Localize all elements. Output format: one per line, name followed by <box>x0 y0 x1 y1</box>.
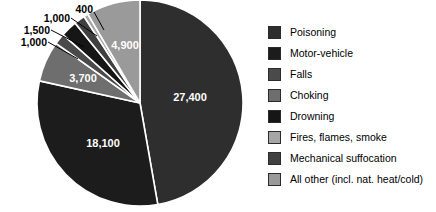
legend-item-fires-flames-smoke[interactable]: Fires, flames, smoke <box>268 127 436 148</box>
callout-label-mechanical-suffocation: 1,000 <box>44 12 70 24</box>
slice-label-motor-vehicle: 18,100 <box>86 137 120 149</box>
legend-item-motor-vehicle[interactable]: Motor-vehicle <box>268 43 436 64</box>
legend-label-drowning: Drowning <box>290 111 334 122</box>
legend-swatch-mechanical-suffocation <box>268 152 281 165</box>
legend-swatch-drowning <box>268 110 281 123</box>
legend-item-drowning[interactable]: Drowning <box>268 106 436 127</box>
legend-item-mechanical-suffocation[interactable]: Mechanical suffocation <box>268 148 436 169</box>
legend-item-poisoning[interactable]: Poisoning <box>268 22 436 43</box>
legend-label-poisoning: Poisoning <box>290 27 336 38</box>
legend-swatch-all-other <box>268 173 281 186</box>
legend-label-choking: Choking <box>290 90 329 101</box>
legend-label-motor-vehicle: Motor-vehicle <box>290 48 353 59</box>
legend-label-fires-flames-smoke: Fires, flames, smoke <box>290 132 387 143</box>
pie-plot-area: 27,400 18,100 3,700 4,900 1,000 1,500 1,… <box>0 0 262 212</box>
callout-label-drowning: 1,500 <box>24 24 50 36</box>
pie-chart-figure: 27,400 18,100 3,700 4,900 1,000 1,500 1,… <box>0 0 436 212</box>
slice-label-choking: 3,700 <box>69 72 97 84</box>
legend-swatch-motor-vehicle <box>268 47 281 60</box>
legend-item-falls[interactable]: Falls <box>268 64 436 85</box>
legend-label-all-other: All other (incl. nat. heat/cold) <box>290 174 423 185</box>
callout-label-falls: 1,000 <box>21 36 47 48</box>
legend-swatch-choking <box>268 89 281 102</box>
callout-label-fires: 400 <box>75 3 93 15</box>
slice-label-poisoning: 27,400 <box>173 91 207 103</box>
pie-svg: 27,400 18,100 3,700 4,900 1,000 1,500 1,… <box>0 0 262 212</box>
legend-label-falls: Falls <box>290 69 312 80</box>
legend-swatch-fires-flames-smoke <box>268 131 281 144</box>
legend-swatch-falls <box>268 68 281 81</box>
slice-label-all-other: 4,900 <box>111 39 139 51</box>
legend-item-all-other[interactable]: All other (incl. nat. heat/cold) <box>268 169 436 190</box>
legend-label-mechanical-suffocation: Mechanical suffocation <box>290 153 397 164</box>
chart-legend: Poisoning Motor-vehicle Falls Choking Dr… <box>268 22 436 190</box>
legend-item-choking[interactable]: Choking <box>268 85 436 106</box>
legend-swatch-poisoning <box>268 26 281 39</box>
pie-slices <box>37 0 243 206</box>
